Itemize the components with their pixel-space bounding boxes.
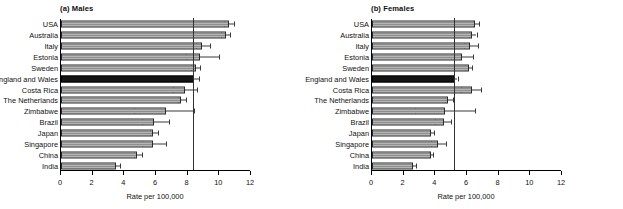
bar-males-13 bbox=[61, 162, 116, 169]
bar-females-13 bbox=[372, 162, 413, 169]
bar-row: Estonia bbox=[372, 52, 561, 63]
bar-row: USA bbox=[61, 19, 250, 30]
bar-row: Zimbabwe bbox=[372, 106, 561, 117]
bar-females-9 bbox=[372, 119, 444, 126]
category-label-females-12: China bbox=[350, 150, 369, 159]
error-cap-males-3-high bbox=[219, 54, 220, 59]
x-tick-males-1 bbox=[92, 171, 93, 175]
category-label-males-8: Zimbabwe bbox=[24, 107, 58, 116]
category-label-males-0: USA bbox=[43, 20, 58, 29]
bar-row: The Netherlands bbox=[61, 95, 250, 106]
category-label-males-12: China bbox=[39, 150, 58, 159]
error-cap-females-10-high bbox=[434, 130, 435, 135]
bar-males-10 bbox=[61, 129, 153, 136]
category-label-males-9: Brazil bbox=[40, 118, 58, 127]
bar-row: Italy bbox=[372, 41, 561, 52]
category-label-females-1: Australia bbox=[340, 31, 369, 40]
bar-row: Australia bbox=[372, 30, 561, 41]
bar-row: Estonia bbox=[61, 52, 250, 63]
category-label-males-5: England and Wales bbox=[0, 74, 58, 83]
x-axis-label-males: Rate per 100,000 bbox=[126, 192, 183, 201]
bars-layer-males: USAAustraliaItalyEstoniaSwedenEngland an… bbox=[60, 19, 250, 171]
bar-row: China bbox=[61, 149, 250, 160]
bar-males-12 bbox=[61, 151, 137, 158]
x-tick-males-6 bbox=[250, 171, 251, 175]
category-label-males-7: The Netherlands bbox=[3, 96, 58, 105]
error-cap-males-1-high bbox=[230, 33, 231, 38]
error-cap-males-12-high bbox=[142, 152, 143, 157]
x-tick-label-females-1: 2 bbox=[401, 178, 405, 187]
x-tick-label-males-2: 4 bbox=[121, 178, 125, 187]
x-tick-females-1 bbox=[403, 171, 404, 175]
panel-title-females: (b) Females bbox=[371, 4, 414, 13]
error-cap-females-9-high bbox=[451, 120, 452, 125]
x-tick-label-males-6: 12 bbox=[246, 178, 254, 187]
x-tick-females-6 bbox=[561, 171, 562, 175]
plot-area-females: USAAustraliaItalyEstoniaSwedenEngland an… bbox=[371, 19, 561, 171]
error-cap-males-6-high bbox=[197, 87, 198, 92]
x-tick-label-females-0: 0 bbox=[369, 178, 373, 187]
x-tick-label-females-3: 6 bbox=[464, 178, 468, 187]
bar-females-1 bbox=[372, 32, 472, 39]
bar-females-7 bbox=[372, 97, 448, 104]
x-tick-label-males-5: 10 bbox=[214, 178, 222, 187]
bar-females-5 bbox=[372, 75, 455, 82]
bar-males-9 bbox=[61, 119, 154, 126]
error-cap-males-13-high bbox=[120, 163, 121, 168]
bar-row: Japan bbox=[61, 128, 250, 139]
x-tick-males-2 bbox=[123, 171, 124, 175]
bar-females-8 bbox=[372, 108, 445, 115]
bar-males-6 bbox=[61, 86, 185, 93]
bar-row: Costa Rica bbox=[372, 84, 561, 95]
y-axis-line-females bbox=[371, 19, 372, 171]
x-tick-label-females-6: 12 bbox=[557, 178, 565, 187]
category-label-males-6: Costa Rica bbox=[22, 85, 58, 94]
bar-males-5 bbox=[61, 75, 194, 82]
x-tick-label-males-1: 2 bbox=[90, 178, 94, 187]
error-cap-females-5-high bbox=[458, 76, 459, 81]
bar-row: Sweden bbox=[61, 62, 250, 73]
bar-row: Costa Rica bbox=[61, 84, 250, 95]
error-cap-females-8-high bbox=[475, 109, 476, 114]
reference-line-males bbox=[193, 18, 194, 171]
x-tick-females-2 bbox=[434, 171, 435, 175]
panel-title-males: (a) Males bbox=[60, 4, 93, 13]
error-cap-males-10-high bbox=[158, 130, 159, 135]
bar-females-11 bbox=[372, 140, 438, 147]
category-label-males-10: Japan bbox=[38, 128, 58, 137]
category-label-females-4: Sweden bbox=[342, 63, 369, 72]
error-cap-males-5-high bbox=[199, 76, 200, 81]
error-cap-males-2-high bbox=[210, 44, 211, 49]
y-axis-line-males bbox=[60, 19, 61, 171]
category-label-females-3: Estonia bbox=[344, 52, 369, 61]
chart-panel-females: (b) Females USAAustraliaItalyEstoniaSwed… bbox=[311, 0, 623, 209]
x-tick-females-5 bbox=[529, 171, 530, 175]
error-cap-males-8-high bbox=[194, 109, 195, 114]
bar-row: Singapore bbox=[61, 138, 250, 149]
error-cap-males-4-high bbox=[200, 65, 201, 70]
error-cap-females-0-high bbox=[479, 22, 480, 27]
category-label-males-13: India bbox=[42, 161, 58, 170]
figure-container: (a) Males USAAustraliaItalyEstoniaSweden… bbox=[0, 0, 623, 209]
bars-layer-females: USAAustraliaItalyEstoniaSwedenEngland an… bbox=[371, 19, 561, 171]
error-cap-males-9-high bbox=[169, 120, 170, 125]
bar-males-1 bbox=[61, 32, 226, 39]
x-tick-males-3 bbox=[155, 171, 156, 175]
bar-males-11 bbox=[61, 140, 153, 147]
error-cap-females-11-high bbox=[446, 141, 447, 146]
bar-row: Singapore bbox=[372, 138, 561, 149]
bar-row: China bbox=[372, 149, 561, 160]
error-cap-females-12-high bbox=[433, 152, 434, 157]
bar-females-0 bbox=[372, 21, 475, 28]
bar-females-12 bbox=[372, 151, 431, 158]
category-label-males-4: Sweden bbox=[31, 63, 58, 72]
bar-row: Brazil bbox=[61, 117, 250, 128]
x-tick-label-females-4: 8 bbox=[496, 178, 500, 187]
category-label-females-0: USA bbox=[354, 20, 369, 29]
x-axis-label-females: Rate per 100,000 bbox=[437, 192, 494, 201]
category-label-males-11: Singapore bbox=[24, 139, 58, 148]
category-label-males-2: Italy bbox=[44, 42, 58, 51]
category-label-males-3: Estonia bbox=[33, 52, 58, 61]
x-tick-males-4 bbox=[187, 171, 188, 175]
x-tick-label-females-5: 10 bbox=[525, 178, 533, 187]
